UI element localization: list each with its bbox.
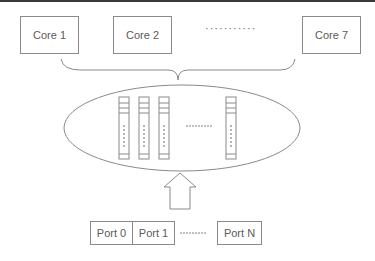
ports-ellipsis-dots: [180, 232, 205, 233]
port-n-label: Port N: [224, 227, 255, 239]
up-arrow-icon: [164, 173, 196, 209]
queues-ellipsis-dots: [186, 125, 211, 126]
diagram-shapes: [0, 0, 375, 261]
queue-pool-ellipse: [64, 85, 300, 171]
grouping-brace: [61, 59, 295, 80]
queue-n: [226, 97, 236, 159]
port-1-label: Port 1: [139, 227, 168, 239]
queue-3: [159, 97, 169, 159]
port-0-label: Port 0: [97, 227, 126, 239]
port-1-box: Port 1: [132, 221, 175, 245]
queue-1: [119, 97, 129, 159]
port-0-box: Port 0: [90, 221, 133, 245]
port-n-box: Port N: [217, 221, 262, 245]
queue-2: [139, 97, 149, 159]
